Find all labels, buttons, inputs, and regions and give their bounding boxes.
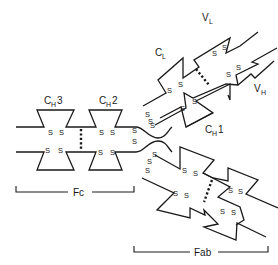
svg-text:H: H	[261, 89, 266, 96]
fab-bracket: Fab	[134, 246, 268, 258]
svg-text:S: S	[228, 186, 233, 195]
label-vh: V H	[254, 83, 266, 96]
svg-text:S: S	[212, 49, 217, 58]
vh-domain-upper	[236, 48, 277, 85]
svg-text:L: L	[209, 18, 213, 25]
label-cl: C L	[155, 47, 166, 60]
svg-text:S: S	[132, 126, 137, 135]
svg-text:S: S	[145, 166, 150, 175]
svg-text:S: S	[236, 63, 241, 72]
svg-text:L: L	[162, 53, 166, 60]
antibody-diagram: S S S S S S S S S S S S S S S S S S S S …	[0, 0, 278, 265]
svg-text:S: S	[148, 117, 153, 126]
svg-text:S: S	[222, 43, 227, 52]
interchain-disulfide-upper-fab	[196, 69, 209, 85]
svg-text:S: S	[193, 169, 198, 178]
svg-text:1: 1	[218, 124, 224, 135]
label-ch3: C H 3	[44, 95, 63, 108]
svg-text:H: H	[106, 101, 111, 108]
svg-text:2: 2	[112, 95, 118, 106]
svg-text:S: S	[110, 128, 115, 137]
svg-text:H: H	[212, 130, 217, 137]
svg-text:S: S	[231, 208, 236, 217]
lower-fab-domain-closure	[203, 173, 244, 225]
svg-text:S: S	[45, 146, 50, 155]
svg-text:S: S	[48, 128, 53, 137]
svg-text:S: S	[152, 150, 157, 159]
svg-text:S: S	[58, 146, 63, 155]
svg-text:V: V	[254, 83, 261, 94]
hinge-disulfide-labels: S S S S	[132, 121, 157, 159]
light-chain-lower	[142, 178, 266, 240]
interchain-disulfide-lower-fab	[204, 180, 212, 202]
svg-text:S: S	[238, 187, 243, 196]
svg-text:S: S	[182, 166, 187, 175]
label-ch1: C H 1	[205, 124, 224, 137]
svg-text:S: S	[220, 207, 225, 216]
svg-text:S: S	[59, 128, 64, 137]
svg-text:S: S	[226, 70, 231, 79]
svg-text:H: H	[51, 101, 56, 108]
fc-label: Fc	[73, 187, 84, 198]
svg-text:S: S	[147, 157, 152, 166]
svg-text:S: S	[110, 148, 115, 157]
label-vl: V L	[202, 12, 213, 25]
svg-text:V: V	[202, 12, 209, 23]
svg-text:S: S	[167, 86, 172, 95]
label-ch2: C H 2	[99, 95, 118, 108]
svg-text:S: S	[98, 148, 103, 157]
svg-text:S: S	[178, 80, 183, 89]
svg-text:S: S	[99, 128, 104, 137]
heavy-chain-lower-fab	[155, 147, 278, 208]
svg-text:S: S	[173, 189, 178, 198]
svg-text:S: S	[132, 137, 137, 146]
fab-label: Fab	[194, 247, 212, 258]
svg-text:S: S	[184, 191, 189, 200]
fc-bracket: Fc	[16, 186, 134, 198]
svg-text:S: S	[180, 104, 185, 113]
svg-text:3: 3	[57, 95, 63, 106]
svg-text:S: S	[192, 97, 197, 106]
